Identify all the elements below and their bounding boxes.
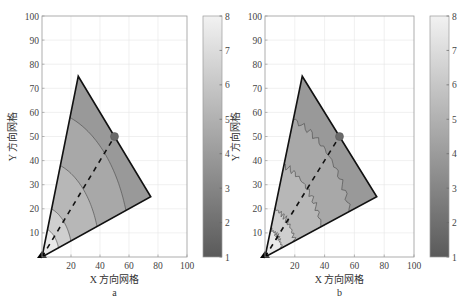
x-tick-label: 100 [407, 261, 422, 271]
y-tick-label: 40 [30, 156, 40, 166]
y-tick-label: 90 [253, 36, 263, 46]
y-tick-label: 70 [253, 84, 263, 94]
x-tick-label: 40 [320, 261, 330, 271]
chart-a: 20406080100102030405060708090100X 方向网格Y … [0, 0, 233, 302]
x-tick-label: 80 [379, 261, 389, 271]
y-tick-label: 10 [253, 228, 263, 238]
target-circle-marker [336, 133, 344, 141]
y-tick-label: 10 [30, 228, 40, 238]
x-tick-label: 80 [153, 261, 163, 271]
panel-label: a [112, 287, 117, 298]
chart-b: 20406080100102030405060708090100X 方向网格Y … [223, 0, 465, 302]
colorbar-tick-label: 2 [452, 218, 457, 228]
y-tick-label: 80 [253, 60, 263, 70]
y-axis-label: Y 方向网格 [6, 112, 18, 161]
colorbar-tick-label: 5 [452, 115, 457, 125]
y-tick-label: 60 [30, 108, 40, 118]
y-tick-label: 50 [30, 132, 40, 142]
panel-a: 20406080100102030405060708090100X 方向网格Y … [0, 0, 233, 302]
colorbar-tick-label: 3 [452, 184, 457, 194]
y-tick-label: 80 [30, 60, 40, 70]
target-circle-marker [111, 133, 119, 141]
y-tick-label: 70 [30, 84, 40, 94]
y-tick-label: 60 [253, 108, 263, 118]
colorbar-tick-label: 8 [452, 12, 457, 22]
y-tick-label: 40 [253, 156, 263, 166]
x-tick-label: 60 [124, 261, 134, 271]
x-axis-label: X 方向网格 [315, 273, 365, 285]
y-axis-label: Y 方向网格 [229, 112, 241, 161]
y-tick-label: 100 [248, 12, 263, 22]
colorbar-tick-label: 6 [452, 80, 457, 90]
colorbar [430, 16, 449, 257]
x-axis-label: X 方向网格 [90, 273, 140, 285]
x-tick-label: 60 [350, 261, 360, 271]
x-tick-label: 40 [95, 261, 105, 271]
colorbar [203, 16, 222, 257]
y-tick-label: 100 [25, 12, 40, 22]
panel-b: 20406080100102030405060708090100X 方向网格Y … [223, 0, 465, 302]
y-tick-label: 30 [253, 180, 263, 190]
colorbar-tick-label: 1 [452, 253, 457, 263]
colorbar-tick-label: 4 [452, 149, 457, 159]
y-tick-label: 30 [30, 180, 40, 190]
x-tick-label: 20 [290, 261, 300, 271]
y-tick-label: 90 [30, 36, 40, 46]
panel-label: b [337, 287, 342, 298]
y-tick-label: 50 [253, 132, 263, 142]
x-tick-label: 20 [66, 261, 76, 271]
y-tick-label: 20 [30, 204, 40, 214]
y-tick-label: 20 [253, 204, 263, 214]
x-tick-label: 100 [180, 261, 195, 271]
colorbar-tick-label: 7 [452, 46, 457, 56]
